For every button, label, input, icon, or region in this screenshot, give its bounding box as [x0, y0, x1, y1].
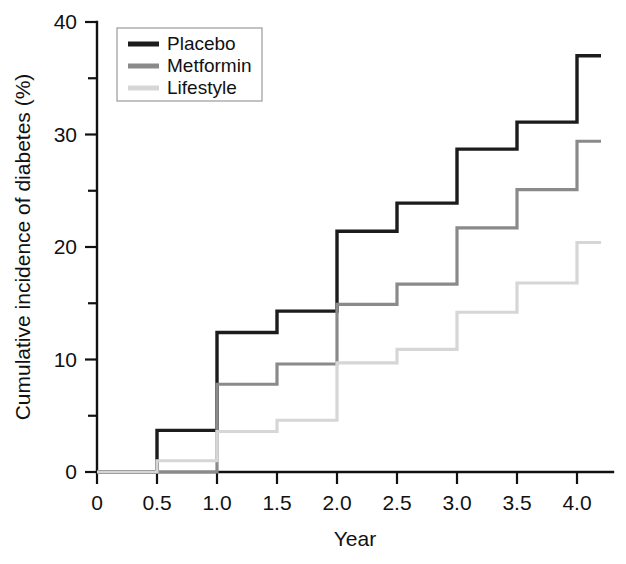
x-axis-ticks: 00.51.01.52.02.53.03.54.0: [91, 472, 591, 514]
y-tick-label: 0: [65, 460, 77, 483]
y-tick-label: 10: [54, 348, 77, 371]
series-group: [97, 56, 601, 472]
y-tick-label: 20: [54, 235, 77, 258]
series-line-lifestyle: [97, 243, 601, 473]
legend: PlaceboMetforminLifestyle: [117, 28, 262, 101]
x-tick-label: 1.0: [202, 491, 231, 514]
legend-label-lifestyle: Lifestyle: [167, 77, 237, 98]
y-tick-label: 40: [54, 10, 77, 33]
step-chart: 010203040 00.51.01.52.02.53.03.54.0 Year…: [0, 0, 626, 564]
x-axis-label: Year: [334, 527, 376, 550]
x-tick-label: 0: [91, 491, 103, 514]
y-tick-label: 30: [54, 123, 77, 146]
legend-label-placebo: Placebo: [167, 33, 236, 54]
x-tick-label: 4.0: [562, 491, 591, 514]
x-tick-label: 3.5: [502, 491, 531, 514]
x-tick-label: 1.5: [262, 491, 291, 514]
y-axis-ticks: 010203040: [54, 10, 97, 483]
x-tick-label: 2.5: [382, 491, 411, 514]
legend-label-metformin: Metformin: [167, 55, 251, 76]
series-line-metformin: [97, 141, 601, 472]
x-tick-label: 2.0: [322, 491, 351, 514]
series-line-placebo: [97, 56, 601, 472]
chart-container: 010203040 00.51.01.52.02.53.03.54.0 Year…: [0, 0, 626, 564]
x-tick-label: 0.5: [142, 491, 171, 514]
x-tick-label: 3.0: [442, 491, 471, 514]
y-axis-label: Cumulative incidence of diabetes (%): [11, 74, 34, 421]
